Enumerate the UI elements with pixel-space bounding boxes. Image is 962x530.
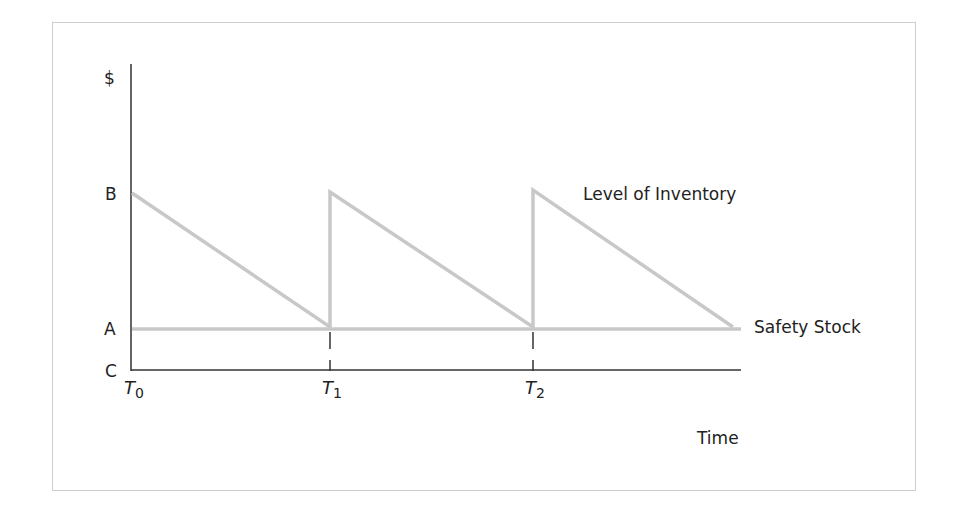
t2-subscript: 2	[536, 385, 545, 401]
inventory-level-line	[132, 190, 733, 327]
x-tick-t2: T2	[525, 379, 545, 400]
annotation-safety-stock: Safety Stock	[754, 319, 861, 336]
t0-letter: T	[124, 377, 135, 398]
x-axis-label: Time	[697, 430, 739, 447]
x-tick-t1: T1	[322, 379, 342, 400]
t0-subscript: 0	[135, 385, 144, 401]
t2-letter: T	[525, 377, 536, 398]
y-tick-b: B	[105, 186, 117, 203]
t1-subscript: 1	[333, 385, 342, 401]
y-tick-c: C	[105, 363, 117, 380]
y-tick-a: A	[104, 321, 116, 338]
chart-plot	[0, 0, 962, 530]
y-axis-label: $	[104, 70, 115, 87]
x-tick-t0: T0	[124, 379, 144, 400]
t1-letter: T	[322, 377, 333, 398]
annotation-level-of-inventory: Level of Inventory	[583, 186, 736, 203]
